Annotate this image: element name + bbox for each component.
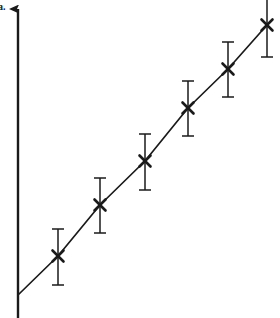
error-bar-group (52, 0, 273, 285)
figure-panel: a. (0, 0, 280, 318)
scatter-plot-with-error-bars (0, 0, 280, 318)
